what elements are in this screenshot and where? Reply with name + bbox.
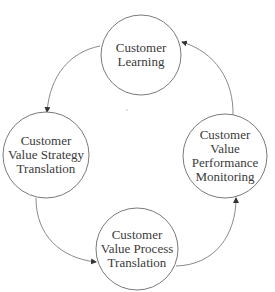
label-line: Customer <box>192 128 258 142</box>
label-line: Monitoring <box>192 170 258 184</box>
label-line: Translation <box>8 162 84 176</box>
label-line: Learning <box>116 55 167 69</box>
label-line: Customer <box>101 228 174 242</box>
label-line: Value <box>192 142 258 156</box>
node-label-customer-value-process-translation: Customer Value Process Translation <box>96 208 178 290</box>
edge-learning-to-strategy <box>47 46 100 112</box>
stray-dot <box>126 109 128 111</box>
node-label-customer-value-strategy-translation: Customer Value Strategy Translation <box>3 112 89 198</box>
label-line: Customer <box>8 134 84 148</box>
node-label-customer-learning: Customer Learning <box>101 15 181 95</box>
edge-strategy-to-process <box>36 198 96 262</box>
label-line: Performance <box>192 156 258 170</box>
label-line: Customer <box>116 41 167 55</box>
edge-monitoring-to-learning <box>182 42 233 116</box>
edge-process-to-monitoring <box>176 198 236 266</box>
label-line: Value Strategy <box>8 148 84 162</box>
label-line: Value Process <box>101 242 174 256</box>
node-label-customer-value-performance-monitoring: Customer Value Performance Monitoring <box>183 114 267 198</box>
label-line: Translation <box>101 256 174 270</box>
